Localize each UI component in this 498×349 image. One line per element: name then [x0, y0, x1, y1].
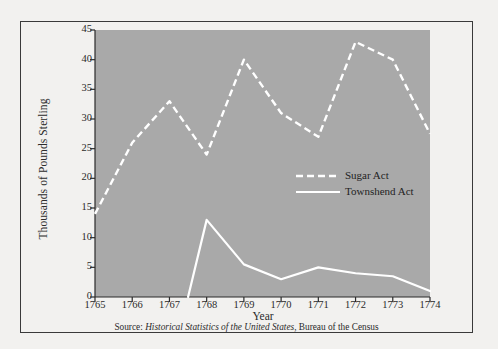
legend-label-sugar-act: Sugar Act [345, 169, 389, 181]
x-tick-label: 1773 [373, 299, 413, 310]
y-tick-label: 45 [66, 24, 92, 35]
y-tick-label: 35 [66, 83, 92, 94]
y-tick-label: 10 [66, 232, 92, 243]
y-tick-label: 20 [66, 172, 92, 183]
y-tick-label: 30 [66, 113, 92, 124]
x-tick-label: 1769 [224, 299, 264, 310]
x-axis-title: Year [95, 310, 431, 322]
x-tick-label: 1772 [336, 299, 376, 310]
source-prefix: Source: [114, 322, 145, 332]
y-tick-label: 40 [66, 54, 92, 65]
chart-figure: 051015202530354045 176517661767176817691… [0, 0, 498, 349]
plot-area-wrapper: 051015202530354045 176517661767176817691… [0, 0, 498, 349]
x-tick-label: 1774 [410, 299, 450, 310]
x-tick-label: 1766 [112, 299, 152, 310]
y-axis-tick-labels: 051015202530354045 [62, 0, 92, 349]
plot-background [95, 30, 430, 297]
x-tick-label: 1765 [75, 299, 115, 310]
x-tick-label: 1770 [261, 299, 301, 310]
legend-label-townshend-act: Townshend Act [345, 185, 414, 197]
y-tick-label: 25 [66, 143, 92, 154]
y-tick-label: 5 [66, 261, 92, 272]
source-suffix: , Bureau of the Census [294, 322, 378, 332]
x-tick-label: 1771 [298, 299, 338, 310]
source-note: Source: Historical Statistics of the Uni… [26, 322, 467, 332]
x-tick-label: 1768 [187, 299, 227, 310]
y-tick-label: 15 [66, 202, 92, 213]
x-tick-label: 1767 [149, 299, 189, 310]
source-title: Historical Statistics of the United Stat… [145, 322, 294, 332]
y-axis-title: Thousands of Pounds Sterling [37, 69, 49, 269]
